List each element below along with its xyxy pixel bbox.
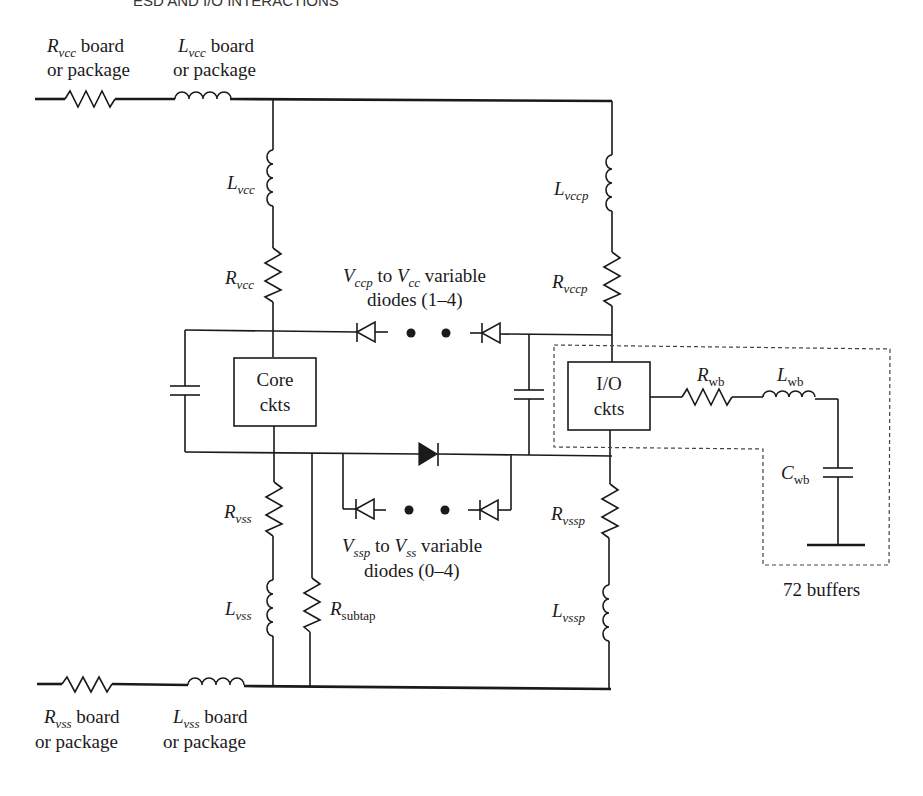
vss-vssp-diode (419, 443, 438, 466)
rvcc-label: Rvcc (224, 267, 254, 292)
bottom-ground-rail (37, 677, 611, 692)
rsubtap-resistor (304, 578, 320, 632)
rvss-board-resistor (62, 677, 112, 692)
buffers-label: 72 buffers (783, 579, 860, 600)
lwb-inductor (763, 391, 815, 397)
lvcc-inductor (267, 150, 273, 206)
io-circuits-block: I/O ckts (568, 362, 650, 456)
core-box-line1: Core (257, 369, 294, 390)
ellipsis-dot (441, 506, 450, 515)
upper-diode-1 (357, 322, 388, 342)
io-box-line1: I/O (596, 373, 621, 394)
rvssp-label: Rvssp (550, 503, 585, 528)
running-title: ESD AND I/O INTERACTIONS (133, 0, 339, 9)
io-vssp-branch (602, 456, 618, 689)
ellipsis-dot (405, 506, 414, 515)
rvss-resistor (266, 482, 282, 536)
lower-diode-2 (468, 500, 498, 520)
ellipsis-dot (407, 329, 416, 338)
lvccp-label: Lvccp (553, 178, 589, 203)
upper-diode-2 (470, 323, 500, 343)
lower-vss-line (185, 443, 612, 466)
lvss-label: Lvss (224, 598, 251, 623)
cwb-label: Cwb (781, 462, 810, 487)
rvcc-resistor (265, 248, 281, 302)
io-buffer-network (650, 389, 865, 545)
lower-diodes-caption: Vssp to Vss variable (342, 535, 482, 560)
core-vcc-branch (265, 99, 281, 357)
core-vss-branch (266, 452, 282, 686)
lwb-label: Lwb (776, 364, 803, 389)
core-box-line2: ckts (260, 394, 291, 415)
upper-diodes-caption: Vccp to Vcc variable (343, 265, 486, 290)
esd-io-circuit-diagram: ESD AND I/O INTERACTIONS (0, 0, 923, 796)
io-box-line2: ckts (594, 398, 625, 419)
substrate-tap-branch (304, 453, 320, 686)
lvss-inductor (267, 580, 273, 636)
rsubtap-label: Rsubtap (329, 598, 376, 623)
lvssp-label: Lvssp (551, 600, 585, 625)
core-decap (170, 330, 200, 452)
lower-diode-string (343, 453, 511, 520)
lvss-board-label-line2: or package (163, 731, 246, 752)
ellipsis-dot (442, 329, 451, 338)
io-decap (514, 334, 544, 455)
lvss-board-label: Lvss board (172, 706, 248, 731)
component-labels: Rvcc board or package Lvcc board or pack… (35, 35, 860, 752)
lvccp-inductor (606, 155, 612, 211)
rvcc-board-resistor (65, 91, 115, 107)
rvcc-board-label-line2: or package (47, 59, 130, 80)
lvcc-board-label-line2: or package (173, 59, 256, 80)
rvss-board-label: Rvss board (43, 706, 120, 731)
rvccp-resistor (604, 252, 620, 306)
lvcc-label: Lvcc (226, 172, 255, 197)
rwb-resistor (682, 389, 732, 405)
io-vccp-branch (604, 101, 620, 362)
core-circuits-block: Core ckts (234, 358, 316, 452)
upper-diode-string (185, 322, 612, 343)
rvss-label: Rvss (223, 501, 252, 526)
rvcc-board-label: Rvcc board (46, 35, 124, 60)
lvcc-board-label: Lvcc board (177, 35, 254, 60)
top-supply-rail (35, 91, 612, 107)
upper-diodes-caption-line2: diodes (1–4) (367, 289, 463, 311)
rvss-board-label-line2: or package (35, 731, 118, 752)
lvssp-inductor (603, 585, 609, 641)
lower-diode-1 (356, 499, 386, 519)
rwb-label: Rwb (696, 364, 725, 389)
rvccp-label: Rvccp (551, 271, 588, 296)
lvcc-board-inductor (175, 92, 231, 99)
lower-diodes-caption-line2: diodes (0–4) (364, 560, 460, 582)
rvssp-resistor (602, 484, 618, 538)
lvss-board-inductor (188, 678, 244, 685)
